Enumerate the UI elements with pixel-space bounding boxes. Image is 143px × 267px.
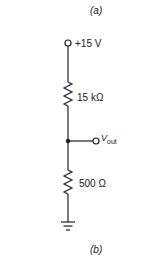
supply-terminal-icon — [65, 40, 71, 46]
circuit-diagram: (a) +15 V 15 kΩ Vout 500 Ω (b) — [0, 0, 143, 267]
ground-icon — [61, 222, 75, 230]
resistor-r1-icon — [64, 82, 72, 106]
caption-a: (a) — [90, 5, 102, 16]
caption-b: (b) — [90, 244, 102, 255]
output-terminal-icon — [93, 138, 99, 144]
vout-label: Vout — [101, 133, 117, 145]
r1-label: 15 kΩ — [77, 92, 104, 103]
r2-label: 500 Ω — [79, 178, 106, 189]
supply-label: +15 V — [75, 38, 102, 49]
resistor-r2-icon — [64, 170, 72, 194]
